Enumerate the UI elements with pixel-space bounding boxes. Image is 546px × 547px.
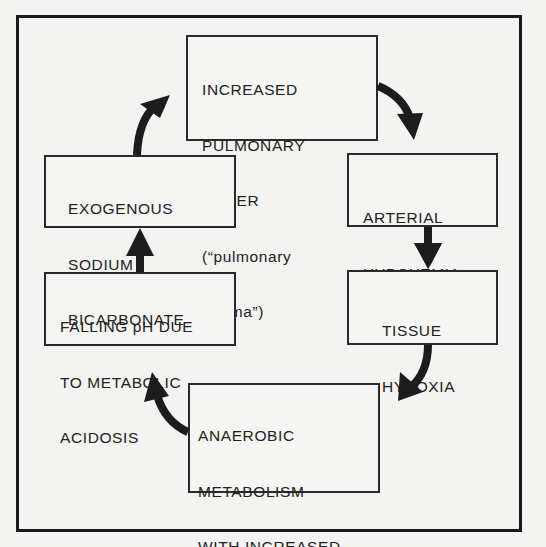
arrow-curved-down-icon [378,86,423,140]
arrow-curved-up-right-icon [137,95,170,155]
arrow-down-icon [414,227,442,270]
arrow-curved-up-left-icon [144,372,188,432]
arrows-layer [0,0,546,547]
arrow-up-icon [126,228,154,272]
arrow-curved-down-left-icon [398,345,428,401]
